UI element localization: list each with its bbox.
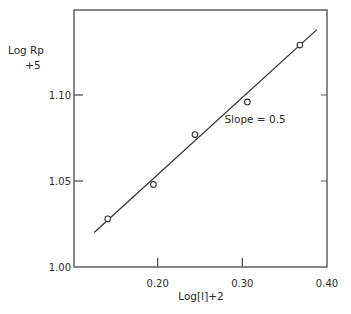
plot-border: [74, 10, 327, 267]
x-tick-label: 0.40: [316, 278, 338, 289]
x-tick-label: 0.20: [147, 278, 169, 289]
fit-line: [94, 30, 317, 233]
y-tick-label: 1.10: [49, 90, 71, 101]
slope-annotation: Slope = 0.5: [224, 113, 285, 125]
y-axis-label-line2: +5: [25, 59, 40, 71]
data-point-marker: [192, 132, 198, 138]
regression-line: [94, 30, 317, 233]
y-tick-label: 1.00: [49, 262, 71, 273]
y-tick-label: 1.05: [49, 176, 71, 187]
data-point-marker: [245, 99, 251, 105]
scatter-chart: 0.200.300.401.001.051.10 Log Rp +5 Log[I…: [0, 0, 351, 314]
data-point-marker: [151, 182, 157, 188]
x-tick-label: 0.30: [231, 278, 253, 289]
data-point-marker: [105, 216, 111, 222]
axis-ticks: 0.200.300.401.001.051.10: [49, 90, 338, 289]
data-point-marker: [297, 42, 303, 48]
y-axis-label-line1: Log Rp: [8, 44, 44, 56]
annotations: Slope = 0.5: [224, 113, 285, 125]
x-axis-label: Log[I]+2: [178, 290, 224, 302]
plot-frame: [74, 10, 327, 267]
